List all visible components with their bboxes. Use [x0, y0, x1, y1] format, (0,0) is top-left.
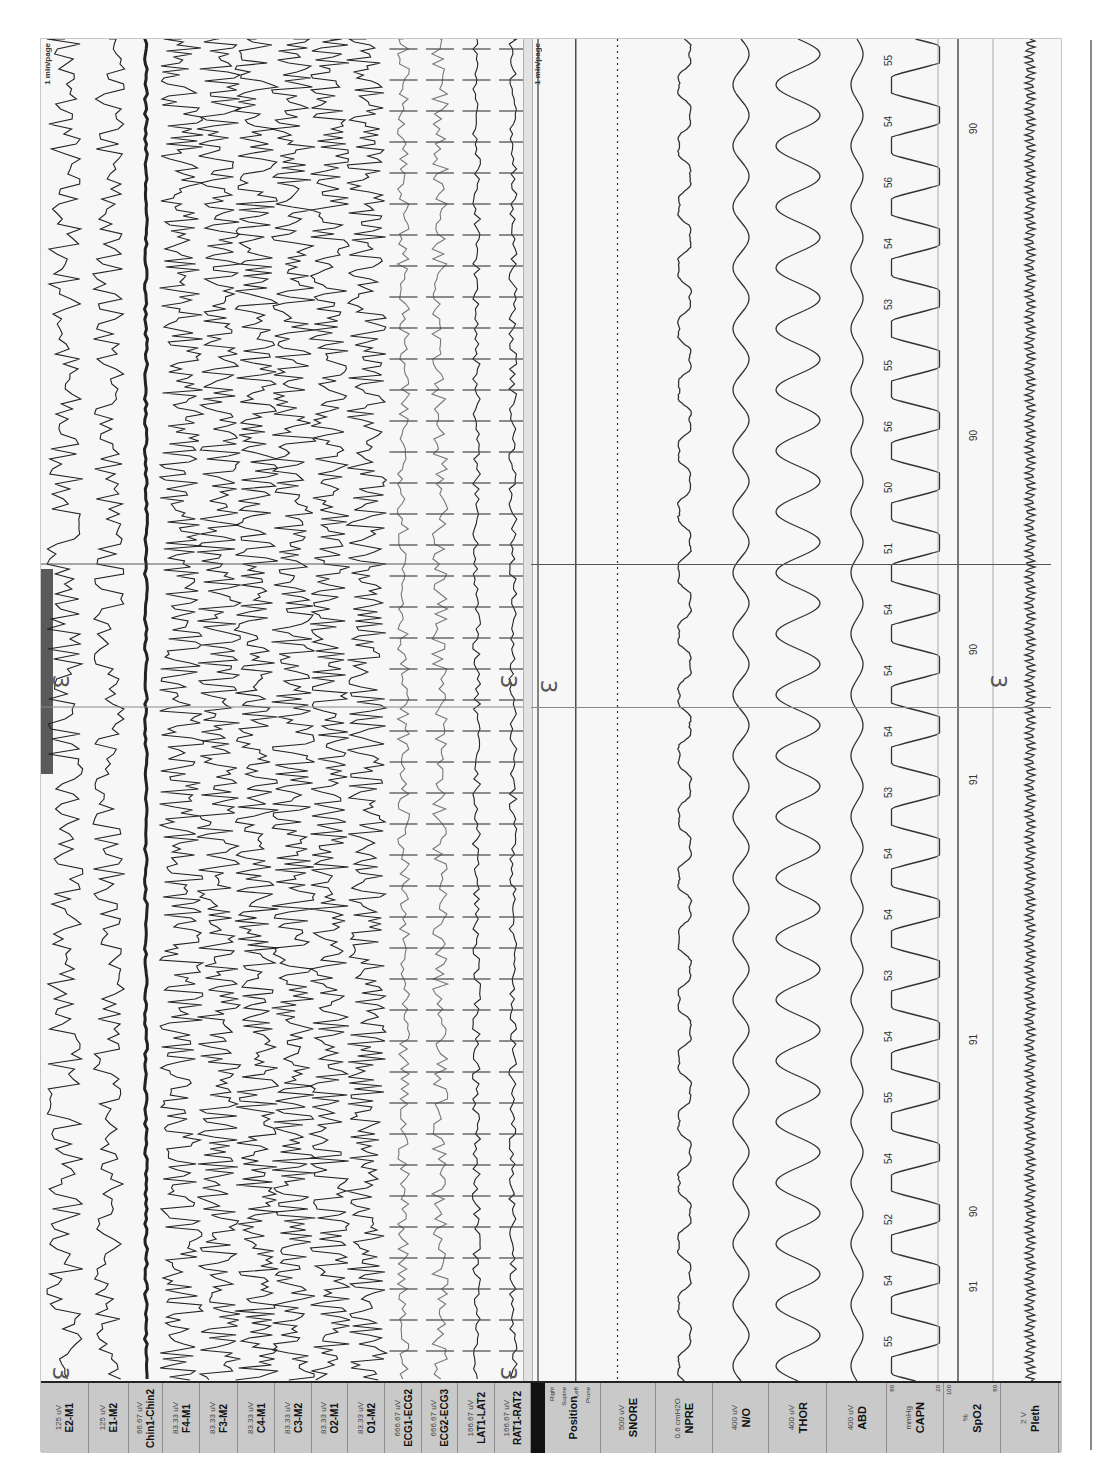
psg-viewer-window: 1 min/page 1 min/page 555456545355565051… — [40, 38, 1062, 1452]
sleep-stage-marker: 3 — [536, 680, 561, 694]
channel-label-abd[interactable]: ABD400 uV — [827, 1383, 887, 1453]
channel-scale: 166.67 uV — [502, 1400, 511, 1436]
cursor-line[interactable] — [531, 564, 1051, 565]
channel-label-c4-m1[interactable]: C4-M183.33 uV — [238, 1383, 275, 1453]
channel-scale: % — [961, 1414, 970, 1421]
channel-name: E1-M2 — [108, 1403, 119, 1432]
spo2-value: 90 — [968, 430, 979, 441]
position-tick: Right — [549, 1387, 555, 1401]
channel-name: SpO2 — [971, 1404, 983, 1433]
respiratory-traces — [531, 39, 1061, 1381]
channel-label-npre[interactable]: NPRE0.6 cmH2O — [656, 1383, 713, 1453]
channel-name: ECG2-ECG3 — [439, 1389, 450, 1447]
channel-scale: 125 uV — [98, 1405, 107, 1430]
eeg-panel[interactable]: 1 min/page — [41, 39, 523, 1381]
range-min: 80 — [992, 1385, 998, 1392]
channel-label-strip: E2-M1125 uVE1-M2125 uVChin1-Chin266.67 u… — [41, 1381, 1061, 1453]
channel-label-e1-m2[interactable]: E1-M2125 uV — [89, 1383, 129, 1453]
channel-label-o2-m1[interactable]: O2-M183.33 uV — [312, 1383, 348, 1453]
capn-value: 54 — [883, 1153, 894, 1164]
range-max: 80 — [889, 1385, 895, 1392]
channel-scale: 400 uV — [730, 1405, 739, 1430]
capn-value: 56 — [883, 421, 894, 432]
channel-scale: mmHg — [904, 1406, 913, 1430]
channel-scale: 83.33 uV — [171, 1402, 180, 1434]
channel-label-e2-m1[interactable]: E2-M1125 uV — [41, 1383, 89, 1453]
channel-label-thor[interactable]: THOR400 uV — [769, 1383, 827, 1453]
channel-label-spo2[interactable]: SpO2%10080 — [944, 1383, 1001, 1453]
channel-scale: 0.6 cmH2O — [673, 1398, 682, 1438]
spo2-value: 90 — [968, 1206, 979, 1217]
channel-name: ABD — [856, 1406, 868, 1430]
channel-scale: 2 V — [1019, 1412, 1028, 1424]
sleep-stage-marker: 3 — [986, 675, 1011, 689]
channel-name: C3-M2 — [293, 1403, 304, 1433]
position-tick: Prone — [585, 1387, 591, 1403]
channel-name: O2-M1 — [329, 1403, 340, 1434]
capn-value: 54 — [883, 116, 894, 127]
channel-name: O1-M2 — [366, 1403, 377, 1434]
sleep-stage-marker: 3 — [496, 675, 521, 689]
spo2-value: 91 — [968, 1280, 979, 1291]
capn-value: 54 — [883, 848, 894, 859]
channel-label-f4-m1[interactable]: F4-M183.33 uV — [163, 1383, 200, 1453]
sleep-stage-marker: 3 — [496, 1367, 521, 1381]
channel-label-capn[interactable]: CAPNmmHg8020 — [887, 1383, 944, 1453]
capn-value: 55 — [883, 1092, 894, 1103]
capn-value: 55 — [883, 55, 894, 66]
channel-scale: 66.67 uV — [135, 1402, 144, 1434]
channel-label-n-o[interactable]: N/O400 uV — [713, 1383, 769, 1453]
channel-label-o1-m2[interactable]: O1-M283.33 uV — [348, 1383, 385, 1453]
range-min: 20 — [935, 1385, 941, 1392]
capn-value: 54 — [883, 604, 894, 615]
channel-name: RAT1-RAT2 — [512, 1391, 523, 1445]
page-scale-label: 1 min/page — [533, 43, 542, 85]
channel-scale: 666.67 uV — [429, 1400, 438, 1436]
channel-scale: 83.33 uV — [356, 1402, 365, 1434]
channel-name: ECG1-ECG2 — [403, 1389, 414, 1447]
channel-name: C4-M1 — [256, 1403, 267, 1433]
channel-label-chin1-chin2[interactable]: Chin1-Chin266.67 uV — [129, 1383, 163, 1453]
capn-value: 54 — [883, 238, 894, 249]
capn-value: 54 — [883, 1275, 894, 1286]
channel-scale: 83.33 uV — [246, 1402, 255, 1434]
channel-label-rat1-rat2[interactable]: RAT1-RAT2166.67 uV — [495, 1383, 531, 1453]
spo2-value: 90 — [968, 123, 979, 134]
capn-value: 54 — [883, 909, 894, 920]
channel-name: F4-M1 — [181, 1404, 192, 1433]
spo2-value: 91 — [968, 774, 979, 785]
sleep-stage-marker: 3 — [48, 675, 73, 689]
channel-label-position[interactable]: PositionRightSupineLeftProne — [545, 1383, 601, 1453]
window-edge — [1090, 40, 1092, 1450]
capn-value: 51 — [883, 543, 894, 554]
channel-label-ecg1-ecg2[interactable]: ECG1-ECG2666.67 uV — [385, 1383, 422, 1453]
channel-label-f3-m2[interactable]: F3-M283.33 uV — [200, 1383, 238, 1453]
channel-label-ecg2-ecg3[interactable]: ECG2-ECG3666.67 uV — [422, 1383, 458, 1453]
channel-name: Pleth — [1029, 1405, 1041, 1432]
position-tick: Left — [573, 1387, 579, 1397]
channel-name: CAPN — [914, 1402, 926, 1433]
channel-name: E2-M1 — [64, 1403, 75, 1432]
channel-scale: 400 uV — [787, 1405, 796, 1430]
capn-value: 53 — [883, 970, 894, 981]
channel-scale: 500 uV — [617, 1405, 626, 1430]
channel-scale: 666.67 uV — [393, 1400, 402, 1436]
capn-value: 54 — [883, 726, 894, 737]
capn-value: 56 — [883, 177, 894, 188]
channel-scale: 166.67 uV — [466, 1400, 475, 1436]
capn-value: 50 — [883, 482, 894, 493]
channel-name: LAT1-LAT2 — [476, 1392, 487, 1444]
channel-label-snore[interactable]: SNORE500 uV — [601, 1383, 656, 1453]
position-tick: Supine — [561, 1387, 567, 1406]
channel-label-c3-m2[interactable]: C3-M283.33 uV — [275, 1383, 312, 1453]
range-max: 100 — [946, 1385, 952, 1395]
capn-value: 53 — [883, 787, 894, 798]
capn-value: 53 — [883, 299, 894, 310]
capn-value: 55 — [883, 1336, 894, 1347]
cursor-line[interactable] — [531, 707, 1051, 708]
respiratory-panel[interactable]: 1 min/page 55545654535556505154545453545… — [531, 39, 1061, 1381]
channel-label-lat1-lat2[interactable]: LAT1-LAT2166.67 uV — [458, 1383, 495, 1453]
channel-scale: 83.33 uV — [319, 1402, 328, 1434]
channel-name: Chin1-Chin2 — [145, 1389, 156, 1448]
channel-label-pleth[interactable]: Pleth2 V — [1001, 1383, 1059, 1453]
